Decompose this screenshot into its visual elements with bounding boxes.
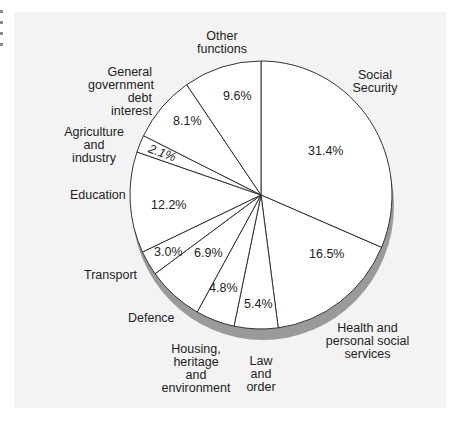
label-agriculture: Agriculture and industry <box>58 126 130 165</box>
label-social-security: Social Security <box>345 69 405 95</box>
value-housing: 4.8% <box>209 281 238 295</box>
value-education: 12.2% <box>151 198 186 212</box>
value-defence: 6.9% <box>194 246 223 260</box>
label-health: Health and personal social services <box>325 322 410 361</box>
value-transport: 3.0% <box>154 245 183 259</box>
label-transport: Transport <box>84 269 134 282</box>
label-education: Education <box>70 189 120 202</box>
label-defence: Defence <box>128 312 174 325</box>
label-other: Other functions <box>196 30 248 56</box>
value-health: 16.5% <box>309 247 344 261</box>
value-debt: 8.1% <box>173 114 202 128</box>
label-housing: Housing, heritage and environment <box>160 343 232 395</box>
value-law: 5.4% <box>244 297 273 311</box>
label-debt: General government debt interest <box>88 66 152 118</box>
label-law: Law and order <box>245 355 277 394</box>
value-social-security: 31.4% <box>308 144 343 158</box>
value-other: 9.6% <box>223 89 252 103</box>
